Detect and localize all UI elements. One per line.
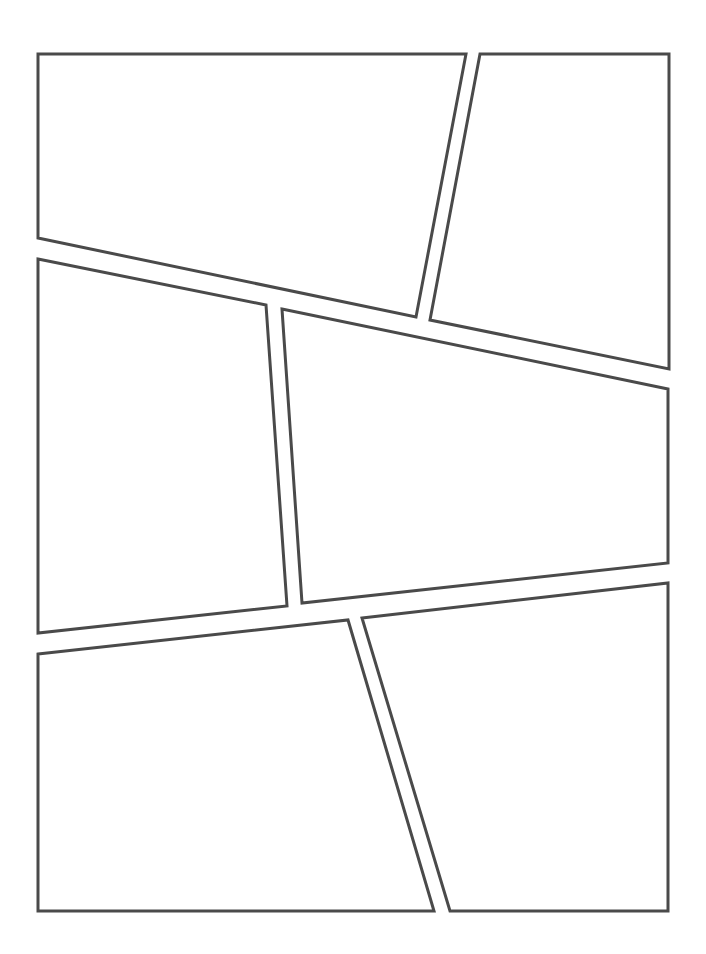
- comic-panel-top-right: [430, 54, 669, 369]
- comic-page-template: [0, 0, 706, 954]
- panel-layout: [0, 0, 706, 954]
- comic-panel-middle-left: [38, 259, 287, 633]
